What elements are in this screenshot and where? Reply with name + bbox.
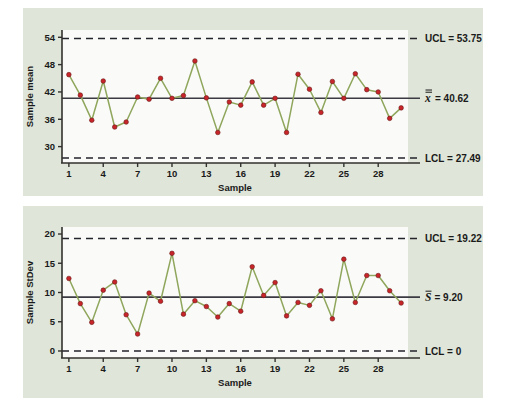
- x-tick-label: 7: [135, 168, 140, 179]
- y-axis-title: Sample StDev: [24, 260, 35, 324]
- data-point: [170, 96, 175, 101]
- data-point: [216, 130, 221, 135]
- data-point: [135, 95, 140, 100]
- data-point: [296, 72, 301, 77]
- xbar-chart: 303642485414710131619222528SampleSample …: [0, 0, 506, 206]
- x-axis-title: Sample: [218, 182, 252, 193]
- data-point: [78, 301, 83, 306]
- x-tick-label: 13: [201, 363, 212, 374]
- data-point: [204, 304, 209, 309]
- data-point: [193, 298, 198, 303]
- ucl-label: UCL = 53.75: [425, 33, 482, 44]
- control-chart-figure: 303642485414710131619222528SampleSample …: [0, 0, 506, 411]
- data-point: [181, 93, 186, 98]
- center-line-symbol: S: [425, 291, 431, 303]
- data-point: [376, 90, 381, 95]
- x-tick-label: 10: [167, 363, 178, 374]
- data-point: [342, 96, 347, 101]
- data-point: [319, 110, 324, 115]
- data-point: [353, 300, 358, 305]
- x-tick-label: 22: [304, 168, 315, 179]
- center-line-label: = 40.62: [435, 93, 469, 104]
- data-point: [399, 106, 404, 111]
- data-point: [273, 96, 278, 101]
- center-line-label: = 9.20: [435, 292, 464, 303]
- data-point: [261, 293, 266, 298]
- x-tick-label: 19: [270, 363, 281, 374]
- data-point: [227, 100, 232, 105]
- data-point: [319, 288, 324, 293]
- data-point: [101, 79, 106, 84]
- y-tick-label: 54: [44, 32, 55, 43]
- data-point: [376, 273, 381, 278]
- data-point: [364, 273, 369, 278]
- data-point: [112, 125, 117, 130]
- data-point: [67, 276, 72, 281]
- data-point: [364, 87, 369, 92]
- x-tick-label: 10: [167, 168, 178, 179]
- data-point: [112, 280, 117, 285]
- data-point: [89, 320, 94, 325]
- x-tick-label: 13: [201, 168, 212, 179]
- data-point: [170, 251, 175, 256]
- lcl-label: LCL = 27.49: [425, 153, 481, 164]
- data-point: [342, 257, 347, 262]
- data-point: [296, 300, 301, 305]
- data-point: [250, 80, 255, 85]
- center-line-symbol: x: [424, 92, 431, 104]
- data-point: [250, 264, 255, 269]
- x-tick-label: 16: [235, 363, 246, 374]
- y-tick-label: 36: [44, 114, 55, 125]
- x-tick-label: 28: [373, 168, 384, 179]
- ucl-label: UCL = 19.22: [425, 233, 482, 244]
- x-tick-label: 28: [373, 363, 384, 374]
- plot-area-background: [62, 227, 408, 358]
- data-point: [147, 97, 152, 102]
- x-tick-label: 4: [101, 168, 107, 179]
- data-point: [67, 72, 72, 77]
- lcl-label: LCL = 0: [425, 346, 462, 357]
- y-tick-label: 15: [44, 258, 55, 269]
- s-chart: 0510152014710131619222528SampleSample St…: [0, 205, 506, 411]
- data-point: [307, 87, 312, 92]
- x-tick-label: 7: [135, 363, 140, 374]
- y-tick-label: 42: [44, 86, 55, 97]
- data-point: [124, 312, 129, 317]
- data-point: [124, 120, 129, 125]
- data-point: [387, 288, 392, 293]
- data-point: [147, 291, 152, 296]
- x-tick-label: 19: [270, 168, 281, 179]
- data-point: [238, 309, 243, 314]
- data-point: [78, 93, 83, 98]
- x-tick-label: 16: [235, 168, 246, 179]
- x-tick-label: 4: [101, 363, 107, 374]
- x-tick-label: 25: [339, 168, 350, 179]
- data-point: [238, 103, 243, 108]
- data-point: [193, 59, 198, 64]
- plot-area-background: [62, 30, 408, 163]
- data-point: [261, 103, 266, 108]
- y-axis-title: Sample mean: [24, 66, 35, 127]
- data-point: [89, 118, 94, 123]
- data-point: [158, 76, 163, 81]
- data-point: [284, 314, 289, 319]
- data-point: [101, 288, 106, 293]
- x-tick-label: 22: [304, 363, 315, 374]
- y-tick-label: 20: [44, 228, 55, 239]
- data-point: [353, 71, 358, 76]
- data-point: [158, 299, 163, 304]
- data-point: [284, 130, 289, 135]
- x-axis-title: Sample: [218, 377, 252, 388]
- data-point: [227, 301, 232, 306]
- y-tick-label: 10: [44, 287, 55, 298]
- data-point: [181, 312, 186, 317]
- data-point: [216, 315, 221, 320]
- y-tick-label: 48: [44, 59, 55, 70]
- data-point: [307, 303, 312, 308]
- data-point: [330, 79, 335, 84]
- y-tick-label: 0: [50, 345, 55, 356]
- y-tick-label: 5: [50, 316, 56, 327]
- data-point: [273, 280, 278, 285]
- data-point: [204, 96, 209, 101]
- x-tick-label: 1: [66, 363, 72, 374]
